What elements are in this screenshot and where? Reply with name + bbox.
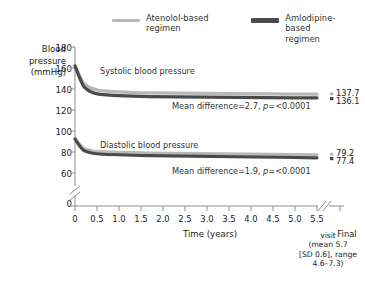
annotation-systolic-stat-suffix: =<0.0001 [268,101,310,111]
x-tick-0: 0 [63,214,87,224]
value-label-diastolic-amlodipine: 77.4 [336,156,354,166]
x-tick-2.5: 2.5 [173,214,197,224]
x-tick-3.0: 3.0 [195,214,219,224]
chart-figure: Atenolol-based regimen Amlodipine-based … [0,0,365,284]
x-tick-2.0: 2.0 [151,214,175,224]
x-tick-4.5: 4.5 [261,214,285,224]
annotation-systolic-stat: Mean difference=2.7, p=<0.0001 [172,101,311,111]
endpoint-marker-systolic-amlodipine [330,97,333,100]
final-visit-caption: visit (mean 5.7 [SD 0.6], range 4.6–7.3) [291,231,365,269]
x-axis-title: Time (years) [150,229,270,239]
annotation-diastolic-stat-suffix: =<0.0001 [268,166,310,176]
endpoint-marker-systolic-atenolol [330,93,333,96]
annotation-diastolic-stat-prefix: Mean difference=1.9, [172,166,263,176]
x-tick-marks [75,206,340,211]
x-tick-5.5: 5.5 [305,214,329,224]
y-tick-marks [70,47,75,206]
x-tick-3.5: 3.5 [217,214,241,224]
value-label-systolic-amlodipine: 136.1 [336,96,359,106]
x-tick-1.0: 1.0 [107,214,131,224]
endpoint-marker-diastolic-atenolol [330,153,333,156]
annotation-systolic-title: Systolic blood pressure [100,66,195,76]
x-tick-4.0: 4.0 [239,214,263,224]
annotation-diastolic-title: Diastolic blood pressure [100,140,198,150]
endpoint-marker-diastolic-amlodipine [330,157,333,160]
annotation-diastolic-stat: Mean difference=1.9, p=<0.0001 [172,166,311,176]
annotation-systolic-stat-prefix: Mean difference=2.7, [172,101,263,111]
x-tick-0.5: 0.5 [85,214,109,224]
x-tick-5.0: 5.0 [283,214,307,224]
x-tick-1.5: 1.5 [129,214,153,224]
